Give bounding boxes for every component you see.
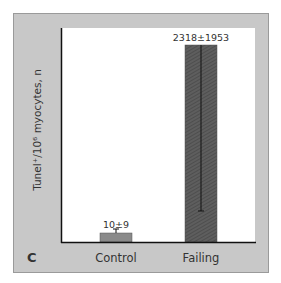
panel-label: C xyxy=(27,250,37,265)
x-tick-label-control: Control xyxy=(95,251,137,265)
y-axis-label: Tunel⁺/10⁶ myocytes, n xyxy=(31,69,43,192)
data-label-failing: 2318±1953 xyxy=(173,32,229,43)
data-label-control: 10±9 xyxy=(103,219,129,230)
plot-area xyxy=(61,28,255,242)
x-tick-label-failing: Failing xyxy=(183,251,220,265)
bar-control xyxy=(100,233,132,242)
bar-chart: Tunel⁺/10⁶ myocytes, n C Control Failing… xyxy=(0,0,281,283)
